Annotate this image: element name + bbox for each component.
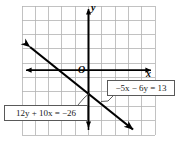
equation-label-right: −5x − 6y = 13 (107, 80, 175, 96)
x-axis-label: x (146, 69, 151, 79)
leader-line-left (78, 94, 89, 106)
leader-line-right (101, 96, 113, 102)
graph-figure: O y x −5x − 6y = 13 12y + 10x = −26 (0, 0, 180, 141)
y-axis-label: y (91, 3, 95, 13)
origin-label: O (78, 65, 85, 75)
equation-label-left: 12y + 10x = −26 (4, 105, 88, 121)
